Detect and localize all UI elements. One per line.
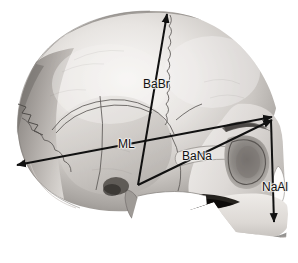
orbit-fissure <box>236 146 260 178</box>
skull-craniometry-figure: BaBr ML BaNa NaAl <box>0 0 298 263</box>
skull-body <box>17 11 290 262</box>
skull-illustration <box>0 0 298 263</box>
measurement-label-babr: BaBr <box>143 78 170 90</box>
measurement-label-bana: BaNa <box>182 150 212 162</box>
measurement-label-naal: NaAl <box>262 181 288 193</box>
mastoid-shadow <box>103 184 121 196</box>
measurement-label-ml: ML <box>118 138 135 150</box>
